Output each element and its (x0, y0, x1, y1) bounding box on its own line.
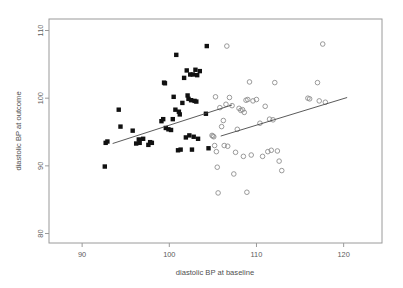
data-point (191, 72, 195, 76)
data-point (180, 101, 184, 105)
y-axis-label: diastolic BP at outcome (14, 91, 23, 170)
data-point (192, 135, 196, 139)
x-tick-label: 110 (251, 250, 263, 259)
data-point (178, 147, 182, 151)
y-tick-label: 90 (36, 162, 45, 170)
x-axis-label: diastolic BP at baseline (176, 268, 254, 277)
data-point (150, 141, 154, 145)
data-point (195, 73, 199, 77)
plot-canvas: 8090100110 90100110120 diastolic BP at b… (0, 0, 403, 288)
data-point (206, 146, 210, 150)
data-point (117, 107, 121, 111)
data-point (178, 112, 182, 116)
y-axis: 8090100110 (36, 25, 49, 238)
data-point (118, 124, 122, 128)
data-point (205, 44, 209, 48)
data-point (187, 133, 191, 137)
data-point (194, 99, 198, 103)
x-axis: 90100110120 (78, 243, 350, 259)
data-point (169, 128, 173, 132)
y-tick-label: 100 (36, 92, 45, 104)
x-tick-label: 120 (337, 250, 349, 259)
data-point (190, 147, 194, 151)
data-point (198, 69, 202, 73)
data-point (171, 117, 175, 121)
data-point (185, 68, 189, 72)
data-point (161, 117, 165, 121)
data-point (103, 164, 107, 168)
y-tick-label: 80 (36, 229, 45, 237)
data-point (130, 128, 134, 132)
data-point (182, 76, 186, 80)
data-point (137, 141, 141, 145)
scatter-plot-figure: 8090100110 90100110120 diastolic BP at b… (0, 0, 403, 288)
y-tick-label: 110 (36, 25, 45, 37)
data-point (105, 139, 109, 143)
data-point (196, 137, 200, 141)
data-point (171, 95, 175, 99)
data-point (174, 53, 178, 57)
data-point (163, 81, 167, 85)
x-tick-label: 90 (78, 250, 86, 259)
plot-frame (49, 19, 382, 243)
data-point (193, 68, 197, 72)
data-point (141, 137, 145, 141)
x-tick-label: 100 (163, 250, 175, 259)
